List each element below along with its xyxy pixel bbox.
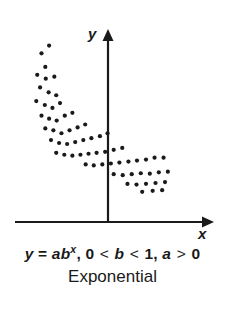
scatter-point — [112, 148, 116, 152]
scatter-point — [52, 75, 56, 79]
scatter-point — [86, 152, 90, 156]
scatter-point — [163, 180, 167, 184]
scatter-point — [126, 159, 130, 163]
x-axis-label: x — [198, 226, 206, 241]
scatter-point — [139, 171, 143, 175]
scatter-point — [109, 161, 113, 165]
scatter-point — [47, 117, 51, 121]
scatter-point — [47, 43, 51, 47]
scatter-point — [43, 103, 47, 107]
scatter-point — [35, 73, 39, 77]
scatter-point — [70, 111, 74, 115]
scatter-point — [55, 119, 59, 123]
plot-svg — [0, 0, 225, 240]
scatter-point — [49, 138, 53, 142]
scatter-point — [140, 190, 144, 194]
scatter-point — [73, 140, 77, 144]
y-axis-label: y — [88, 26, 96, 41]
scatter-point — [57, 141, 61, 145]
equation-greater-than: > — [171, 245, 191, 262]
scatter-point — [84, 162, 88, 166]
scatter-point — [39, 51, 43, 55]
equation-comma-2: , — [153, 245, 162, 262]
scatter-point — [47, 90, 51, 94]
scatter-point — [105, 131, 109, 135]
scatter-point — [62, 153, 66, 157]
scatter-point — [161, 156, 165, 160]
scatter-point — [117, 160, 121, 164]
scatter-point — [54, 151, 58, 155]
y-axis-arrowhead — [103, 29, 114, 41]
scatter-point — [95, 151, 99, 155]
scatter-point — [34, 99, 38, 103]
scatter-point — [144, 182, 148, 186]
scatter-point — [51, 128, 55, 132]
scatter-point — [112, 172, 116, 176]
scatter-point — [39, 114, 43, 118]
scatter-point — [157, 170, 161, 174]
scatter-point — [65, 142, 69, 146]
equation-b: b — [61, 245, 71, 262]
equation-equals: = — [34, 245, 52, 262]
scatter-point — [81, 138, 85, 142]
scatter-point — [58, 101, 62, 105]
exponential-scatter-figure: y x y = abx, 0 < b < 1, a > 0 Exponentia… — [0, 0, 225, 317]
scatter-point — [89, 136, 93, 140]
equation-b-2: b — [115, 245, 125, 262]
equation-text: y = abx, 0 < b < 1, a > 0 — [0, 244, 225, 264]
scatter-point — [125, 182, 129, 186]
equation-a: a — [52, 245, 61, 262]
scatter-point — [43, 126, 47, 130]
plot-area: y x — [0, 0, 225, 240]
equation-y: y — [25, 245, 34, 262]
scatter-point — [70, 154, 74, 158]
scatter-point — [153, 181, 157, 185]
scatter-point — [121, 173, 125, 177]
scatter-point — [152, 156, 156, 160]
equation-a-2: a — [162, 245, 171, 262]
scatter-point — [151, 189, 155, 193]
scatter-point — [59, 131, 63, 135]
scatter-point — [38, 85, 42, 89]
scatter-point — [43, 65, 47, 69]
scatter-point — [166, 170, 170, 174]
equation-less-than-2: < — [124, 245, 144, 262]
equation-zero-2: 0 — [191, 245, 200, 262]
caption-block: y = abx, 0 < b < 1, a > 0 Exponential — [0, 244, 225, 288]
scatter-point — [148, 172, 152, 176]
scatter-point — [130, 172, 134, 176]
scatter-point — [76, 125, 80, 129]
equation-zero: 0 — [85, 245, 94, 262]
scatter-point — [83, 122, 87, 126]
scatter-point — [103, 150, 107, 154]
scatter-point — [50, 106, 54, 110]
scatter-point — [63, 114, 67, 118]
scatter-point — [135, 158, 139, 162]
scatter-point — [160, 188, 164, 192]
equation-one: 1 — [144, 245, 153, 262]
scatter-point — [134, 182, 138, 186]
scatter-point — [67, 128, 71, 132]
scatter-point — [144, 158, 148, 162]
scatter-point — [120, 146, 124, 150]
scatter-points — [34, 43, 170, 193]
equation-less-than-1: < — [94, 245, 114, 262]
scatter-point — [54, 93, 58, 97]
scatter-point — [98, 134, 102, 138]
scatter-point — [92, 163, 96, 167]
scatter-point — [100, 162, 104, 166]
scatter-point — [78, 153, 82, 157]
chart-title: Exponential — [0, 267, 225, 287]
scatter-point — [44, 77, 48, 81]
